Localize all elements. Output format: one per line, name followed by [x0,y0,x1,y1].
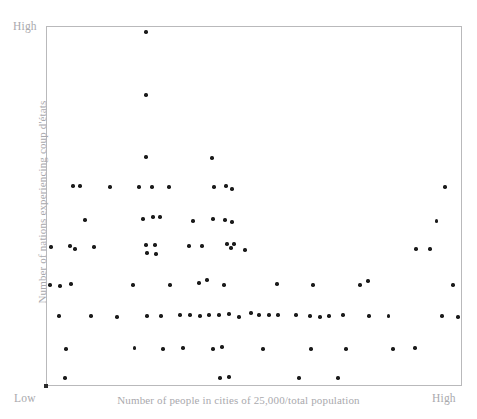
y-axis-title: Number of nations experiencing coup d'ét… [36,72,48,332]
y-axis-high-label: High [13,20,37,32]
scatter-plot-figure: High Low High Number of people in cities… [0,0,477,419]
x-axis-title: Number of people in cities of 25,000/tot… [0,394,477,406]
plot-area-frame [46,26,462,386]
axis-origin-tick [44,384,48,388]
